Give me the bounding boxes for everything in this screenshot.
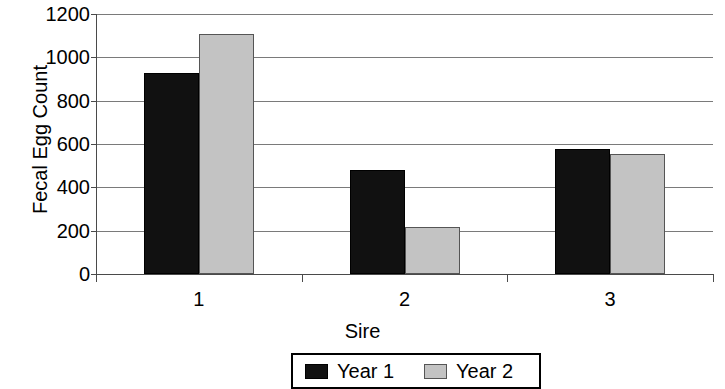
legend-entry: Year 2 [424, 360, 513, 382]
x-axis-category-label: 2 [365, 288, 445, 310]
bar-year-1-sire-1 [144, 73, 199, 275]
legend-entry: Year 1 [305, 360, 394, 382]
plot-area [96, 14, 713, 274]
y-axis-tick-label: 1000 [28, 47, 90, 67]
y-axis-tick-label: 200 [28, 221, 90, 241]
y-axis-tick [91, 57, 97, 58]
bar-year-1-sire-2 [350, 170, 405, 274]
y-axis-tick [91, 231, 97, 232]
y-axis-tick-label: 600 [28, 134, 90, 154]
legend-swatch-icon [424, 364, 447, 379]
y-axis-tick [91, 14, 97, 15]
legend-label: Year 1 [337, 361, 394, 381]
bar-year-1-sire-3 [555, 149, 610, 274]
x-axis-line [96, 274, 714, 275]
y-axis-tick [91, 144, 97, 145]
x-axis-tick [96, 275, 97, 282]
x-axis-tick [507, 275, 508, 282]
x-axis-tick [713, 275, 714, 282]
legend: Year 1Year 2 [291, 353, 541, 389]
gridline [96, 57, 713, 58]
bar-year-2-sire-1 [199, 34, 254, 275]
legend-swatch-icon [305, 364, 328, 379]
x-axis-category-label: 3 [570, 288, 650, 310]
y-axis-tick-label: 400 [28, 177, 90, 197]
x-axis-title: Sire [0, 320, 725, 343]
gridline [96, 14, 713, 15]
bar-year-2-sire-2 [405, 227, 460, 274]
legend-label: Year 2 [456, 361, 513, 381]
y-axis-tick-label: 0 [28, 264, 90, 284]
y-axis-tick [91, 101, 97, 102]
x-axis-tick [302, 275, 303, 282]
bar-year-2-sire-3 [610, 154, 665, 274]
y-axis-tick-label: 800 [28, 91, 90, 111]
y-axis-tick-label: 1200 [28, 4, 90, 24]
y-axis-tick [91, 187, 97, 188]
x-axis-category-label: 1 [159, 288, 239, 310]
